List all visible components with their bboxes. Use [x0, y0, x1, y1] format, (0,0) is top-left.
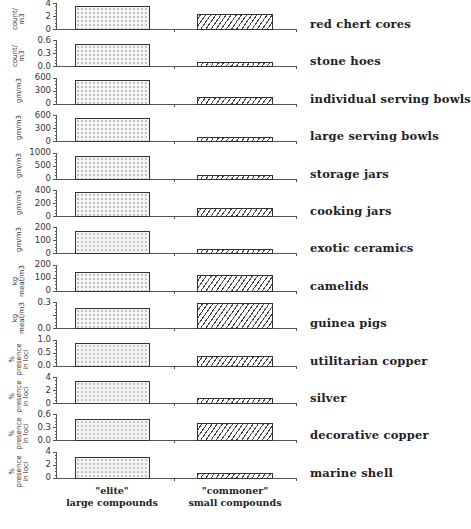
y-axis-unit-label: gm/m3: [16, 73, 23, 107]
y-axis-unit-label: count/ m3: [12, 2, 26, 36]
y-axis-tick: [55, 359, 57, 360]
y-axis-tick: [55, 305, 57, 306]
y-axis-tick-label: 0.6: [25, 410, 51, 419]
commoner-bar: [197, 97, 273, 105]
panel-category-label: cooking jars: [310, 204, 392, 218]
panel-category-label: red chert cores: [310, 17, 411, 31]
y-axis-tick: [53, 190, 57, 191]
panel-category-label: large serving bowls: [310, 129, 439, 143]
y-axis-tick: [53, 16, 57, 17]
y-axis-tick-label: 0.0: [25, 361, 51, 370]
elite-bar: [75, 381, 150, 404]
y-axis-tick: [55, 362, 57, 363]
panel-category-label: decorative copper: [310, 428, 429, 442]
y-axis-tick: [55, 193, 57, 194]
y-axis-tick-label: 500: [25, 161, 51, 170]
y-axis-tick-label: 100: [25, 236, 51, 245]
x-axis-tick: [174, 291, 175, 294]
y-axis-tick: [55, 118, 57, 119]
x-axis-tick: [296, 179, 297, 182]
y-axis-tick: [55, 23, 57, 24]
y-axis-tick: [55, 462, 57, 463]
elite-bar: [75, 156, 150, 179]
x-axis-tick: [174, 216, 175, 219]
y-axis-tick: [53, 315, 57, 316]
y-axis-tick: [55, 288, 57, 289]
y-axis-tick: [53, 227, 57, 228]
y-axis-tick: [55, 468, 57, 469]
x-axis-tick: [174, 66, 175, 69]
y-axis-tick: [55, 213, 57, 214]
x-axis-tick: [296, 403, 297, 406]
y-axis-tick: [55, 309, 57, 310]
y-axis-tick-label: 4: [25, 0, 51, 8]
commoner-bar: [197, 14, 273, 30]
y-axis-tick-label: 0: [25, 137, 51, 146]
y-axis-tick: [55, 200, 57, 201]
y-axis-tick: [55, 475, 57, 476]
y-axis-tick: [55, 6, 57, 7]
y-axis-tick: [53, 128, 57, 129]
y-axis-tick: [53, 414, 57, 415]
panel-category-label: individual serving bowls: [310, 92, 471, 106]
x-axis-tick: [296, 104, 297, 107]
x-axis-tick: [296, 216, 297, 219]
y-axis-tick: [53, 340, 57, 341]
x-axis-tick: [174, 366, 175, 369]
y-axis-tick: [55, 421, 57, 422]
commoner-bar: [197, 137, 273, 142]
commoner-bar: [197, 423, 273, 441]
y-axis-tick: [55, 318, 57, 319]
commoner-bar: [197, 275, 273, 292]
commoner-bar: [197, 473, 273, 479]
commoner-bar: [197, 175, 273, 179]
y-axis-tick: [55, 135, 57, 136]
y-axis-tick-label: 0.6: [25, 36, 51, 45]
panel-category-label: guinea pigs: [310, 316, 387, 330]
elite-bar: [75, 343, 150, 366]
y-axis-tick: [53, 427, 57, 428]
y-axis-tick: [55, 101, 57, 102]
y-axis-tick-label: 200: [25, 199, 51, 208]
y-axis-tick-label: 0: [25, 99, 51, 108]
y-axis-tick-label: 0: [25, 399, 51, 408]
y-axis-tick: [53, 53, 57, 54]
y-axis-tick: [55, 312, 57, 313]
y-axis-tick: [53, 240, 57, 241]
y-axis-tick-label: 0.3: [25, 423, 51, 432]
x-group-label: "elite"large compounds: [47, 485, 177, 509]
y-axis-tick-label: 0.0: [25, 436, 51, 445]
x-axis-tick: [296, 66, 297, 69]
x-axis-tick: [174, 104, 175, 107]
y-axis-tick: [55, 172, 57, 173]
y-axis-tick: [55, 346, 57, 347]
y-axis-tick: [53, 390, 57, 391]
y-axis-tick: [55, 138, 57, 139]
y-axis-tick: [55, 44, 57, 45]
y-axis-unit-label: count/ m3: [12, 39, 26, 73]
y-axis-unit-label: gm/m3: [16, 148, 23, 182]
y-axis-tick: [55, 156, 57, 157]
y-axis-tick-label: 300: [25, 124, 51, 133]
y-axis-tick-label: 0: [25, 249, 51, 258]
commoner-bar: [197, 303, 273, 329]
y-axis-tick: [53, 302, 57, 303]
panel-category-label: silver: [310, 391, 346, 405]
y-axis-tick-label: 0: [25, 212, 51, 221]
y-axis-tick: [55, 437, 57, 438]
panel-category-label: storage jars: [310, 167, 389, 181]
y-axis-tick-label: 300: [25, 86, 51, 95]
y-axis-tick: [55, 60, 57, 61]
y-axis-tick: [55, 162, 57, 163]
y-axis-tick-label: 1.0: [25, 335, 51, 344]
y-axis-tick: [55, 81, 57, 82]
y-axis-tick: [55, 271, 57, 272]
elite-bar: [75, 6, 150, 30]
y-axis-tick: [55, 47, 57, 48]
y-axis-tick-label: 1000: [25, 148, 51, 157]
y-axis-tick: [55, 206, 57, 207]
panel-category-label: camelids: [310, 279, 369, 293]
y-axis-tick-label: 0.0: [25, 324, 51, 333]
y-axis-tick: [55, 159, 57, 160]
